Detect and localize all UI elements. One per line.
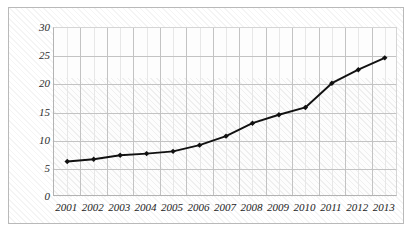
y-tick-label: 0 <box>12 191 50 202</box>
y-tick-label: 30 <box>12 22 50 33</box>
data-point-marker <box>144 151 149 156</box>
x-axis-tick-labels: 2001200220032004200520062007200820092010… <box>53 200 399 220</box>
data-point-marker <box>170 149 175 154</box>
data-point-marker <box>382 55 387 60</box>
series-line-chart <box>54 28 398 197</box>
data-point-marker <box>117 153 122 158</box>
series-markers <box>65 55 388 164</box>
y-tick-label: 15 <box>12 107 50 118</box>
y-axis-tick-labels: 051015202530 <box>9 27 50 197</box>
y-tick-label: 10 <box>12 135 50 146</box>
figure-frame: 051015202530 200120022003200420052006200… <box>8 7 404 224</box>
plot-area <box>53 27 397 196</box>
data-point-marker <box>65 159 70 164</box>
series-polyline <box>67 58 385 162</box>
x-tick-label: 2013 <box>364 200 404 214</box>
chart-figure: 051015202530 200120022003200420052006200… <box>0 0 413 233</box>
y-tick-label: 20 <box>12 78 50 89</box>
data-point-marker <box>197 142 202 147</box>
data-point-marker <box>276 112 281 117</box>
y-tick-label: 5 <box>12 163 50 174</box>
data-point-marker <box>91 157 96 162</box>
y-tick-label: 25 <box>12 50 50 61</box>
